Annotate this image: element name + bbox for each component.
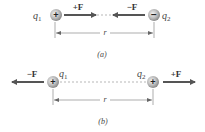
distance-label: r <box>103 95 107 104</box>
panel-a: q1 + +F −F − q2 r (a) <box>33 2 171 59</box>
force-label-minus: −F <box>127 2 138 12</box>
caption-a: (a) <box>97 50 107 59</box>
positive-sign-icon: + <box>53 10 58 20</box>
negative-sign-icon: − <box>151 9 157 20</box>
positive-sign-icon: + <box>50 77 55 87</box>
force-label-plus: +F <box>73 2 84 12</box>
panel-b: −F + q1 q2 + +F r (b) <box>12 68 195 126</box>
q1-label: q1 <box>59 68 68 81</box>
q2-label: q2 <box>162 10 171 23</box>
q2-label: q2 <box>137 68 146 81</box>
distance-label: r <box>103 28 107 37</box>
positive-sign-icon: + <box>150 77 155 87</box>
force-label-minus: −F <box>27 69 38 79</box>
caption-b: (b) <box>98 117 108 126</box>
coulomb-force-diagram: q1 + +F −F − q2 r (a) −F + q1 q2 + +F <box>0 0 205 132</box>
force-label-plus: +F <box>171 69 182 79</box>
q1-label: q1 <box>33 10 42 23</box>
